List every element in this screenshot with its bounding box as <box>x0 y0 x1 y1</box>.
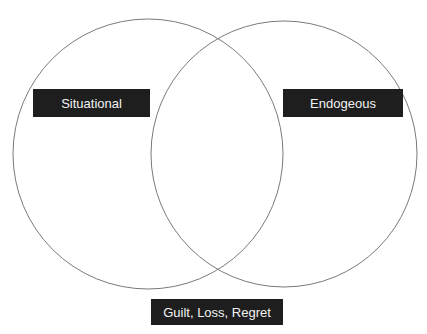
venn-diagram <box>0 0 427 334</box>
endogeous-label-text: Endogeous <box>310 96 376 111</box>
intersection-label: Guilt, Loss, Regret <box>151 299 283 325</box>
left-circle <box>13 19 283 289</box>
intersection-label-text: Guilt, Loss, Regret <box>163 305 271 320</box>
endogeous-label: Endogeous <box>283 89 403 117</box>
situational-label: Situational <box>33 89 150 117</box>
right-circle <box>151 21 417 287</box>
situational-label-text: Situational <box>61 96 122 111</box>
